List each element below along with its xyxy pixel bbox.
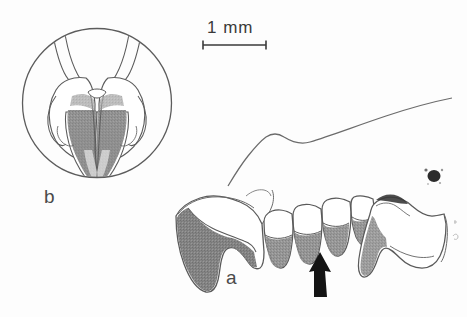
panel-label-b: b: [44, 186, 55, 208]
jaw-dorsal-profile: [228, 98, 452, 186]
figure-container: 1 mm b a: [0, 0, 467, 317]
scale-bar: [203, 41, 266, 50]
inset-panel-b-group: [23, 28, 172, 188]
right-margin-marks: [453, 220, 458, 239]
ink-speck: [424, 168, 443, 185]
diastema-detail: [246, 190, 271, 196]
panel-label-a: a: [226, 267, 237, 289]
scale-bar-label: 1 mm: [207, 18, 254, 38]
main-panel-a-group: [176, 98, 458, 297]
cheek-tooth-1-shading: [265, 236, 292, 268]
